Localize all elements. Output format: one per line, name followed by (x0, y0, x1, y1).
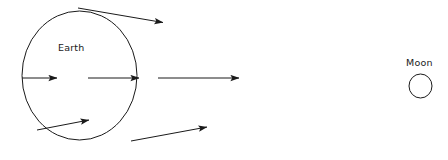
earth-circle (22, 11, 137, 140)
diagram-canvas: Earth Moon (0, 0, 448, 160)
earth-label: Earth (58, 42, 84, 53)
moon-label: Moon (406, 57, 433, 68)
tidal-force-diagram: Earth Moon (0, 0, 448, 160)
force-vector-bottom-right (131, 127, 207, 141)
force-vector-bottom-left (37, 120, 89, 130)
force-vector-top (78, 8, 163, 23)
moon-circle (409, 74, 432, 98)
